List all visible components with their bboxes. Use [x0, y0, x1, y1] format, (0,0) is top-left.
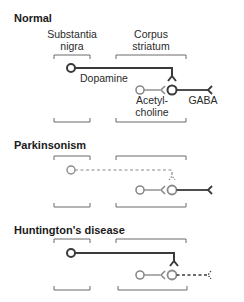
gaba-terminal-icon [208, 186, 212, 194]
gaba-terminal-icon [208, 86, 212, 94]
gaba-neuron-soma-icon [168, 86, 177, 95]
gaba-neuron-soma-icon [168, 271, 177, 280]
label-corpus: Corpus [134, 28, 168, 40]
acetylcholine-terminal-icon [161, 186, 165, 194]
panel-title-huntingtons: Huntington's disease [14, 224, 125, 236]
acetylcholine-neuron-soma-icon [136, 86, 144, 94]
bracket-substantia-nigra-top [54, 55, 90, 59]
acetylcholine-terminal-icon [161, 271, 165, 279]
label-substantia: Substantia [47, 28, 97, 40]
bracket-substantia-nigra-bottom [54, 118, 90, 122]
gaba-terminal-icon [208, 271, 211, 279]
bracket-corpus-striatum-bottom [116, 118, 186, 122]
panel-parkinsonism: Parkinsonism [14, 139, 212, 207]
dopamine-neuron-soma-icon [67, 64, 75, 72]
bracket-substantia-nigra-top [54, 239, 90, 243]
panel-title-parkinsonism: Parkinsonism [14, 139, 86, 151]
dopamine-terminal-icon [170, 261, 178, 266]
label-gaba: GABA [188, 94, 217, 106]
bracket-corpus-striatum-top [116, 156, 186, 160]
basal-ganglia-diagram: Normal Substantia nigra Corpus striatum … [0, 0, 244, 302]
acetylcholine-neuron-soma-icon [136, 271, 144, 279]
bracket-corpus-striatum-top [116, 55, 186, 59]
bracket-corpus-striatum-top [116, 239, 186, 243]
bracket-substantia-nigra-bottom [54, 203, 90, 207]
label-acetyl: Acetyl- [136, 94, 169, 106]
dopamine-terminal-icon [168, 76, 176, 81]
dopamine-neuron-soma-icon [67, 166, 75, 174]
bracket-corpus-striatum-bottom [118, 286, 187, 290]
bracket-substantia-nigra-top [54, 156, 90, 160]
panel-normal: Normal Substantia nigra Corpus striatum … [14, 12, 218, 122]
label-dopamine: Dopamine [80, 72, 128, 84]
panel-title-normal: Normal [14, 12, 52, 24]
gaba-neuron-soma-icon [168, 186, 177, 195]
dopamine-axon-degenerated [75, 170, 172, 175]
bracket-substantia-nigra-bottom [54, 286, 90, 290]
label-choline: choline [135, 106, 168, 118]
label-nigra: nigra [60, 40, 84, 52]
label-striatum: striatum [132, 40, 170, 52]
dopamine-neuron-soma-icon [67, 249, 75, 257]
dopamine-axon [75, 253, 174, 261]
dopamine-terminal-icon [169, 176, 175, 180]
bracket-corpus-striatum-bottom [116, 203, 186, 207]
acetylcholine-terminal-icon [161, 86, 165, 94]
panel-huntingtons: Huntington's disease [14, 224, 211, 290]
acetylcholine-neuron-soma-icon [136, 186, 144, 194]
